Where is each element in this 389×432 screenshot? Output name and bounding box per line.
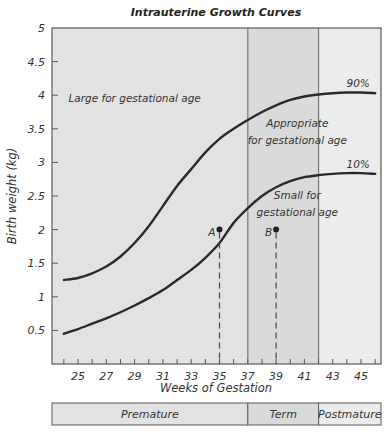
- period-label: Postmature: [318, 408, 382, 421]
- point-B: [273, 227, 279, 233]
- y-tick-label: 1: [38, 291, 45, 304]
- annotation: 10%: [346, 158, 369, 170]
- premature-region: [52, 28, 248, 364]
- y-axis-label: Birth weight (kg): [5, 148, 19, 245]
- x-tick-label: 43: [326, 370, 340, 383]
- chart-title: Intrauterine Growth Curves: [131, 6, 302, 19]
- growth-chart: Intrauterine Growth Curves 2527293133353…: [0, 0, 389, 432]
- x-tick-label: 41: [297, 370, 311, 383]
- point-A: [217, 227, 223, 233]
- y-tick-label: 4.5: [28, 56, 46, 69]
- annotation: for gestational age: [248, 134, 347, 146]
- y-tick-label: 1.5: [28, 257, 46, 270]
- y-tick-label: 3: [38, 156, 45, 169]
- y-tick-label: 4: [38, 89, 45, 102]
- y-tick-label: 0.5: [28, 324, 46, 337]
- x-tick-label: 45: [354, 370, 368, 383]
- plot-background: [52, 28, 381, 364]
- x-tick-label: 29: [128, 370, 142, 383]
- y-tick-label: 3.5: [28, 123, 46, 136]
- annotation: Appropriate: [265, 117, 328, 129]
- period-label: Premature: [121, 408, 179, 421]
- point-A-label: A: [207, 226, 215, 238]
- x-tick-label: 27: [99, 370, 113, 383]
- point-B-label: B: [265, 226, 272, 238]
- annotation: 90%: [346, 77, 369, 89]
- x-axis-label: Weeks of Gestation: [160, 381, 272, 395]
- annotation: gestational age: [257, 206, 339, 218]
- x-tick-label: 25: [71, 370, 85, 383]
- y-tick-label: 2.5: [28, 190, 46, 203]
- y-tick-label: 2: [38, 224, 45, 237]
- y-tick-label: 5: [38, 22, 45, 35]
- gestation-period-bar: PrematureTermPostmature: [52, 403, 382, 425]
- annotation: Large for gestational age: [68, 92, 200, 104]
- period-label: Term: [269, 408, 296, 421]
- annotation: Small for: [274, 189, 322, 201]
